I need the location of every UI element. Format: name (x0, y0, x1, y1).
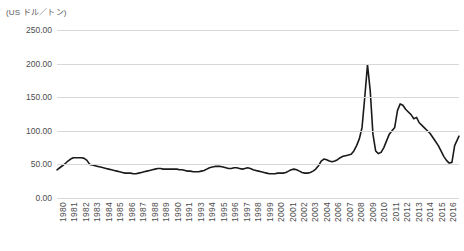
x-axis-tick-label: 1985 (115, 202, 125, 222)
x-axis-tick-label: 2015 (437, 202, 447, 222)
x-axis-tick-label: 2007 (345, 202, 355, 222)
x-axis-tick-label: 1987 (138, 202, 148, 222)
y-axis-tick-label: 100.00 (0, 126, 52, 136)
x-axis-tick-label: 2000 (276, 202, 286, 222)
y-axis-tick-label: 200.00 (0, 59, 52, 69)
x-axis-tick-label: 1991 (184, 202, 194, 222)
x-axis-tick-label: 2006 (333, 202, 343, 222)
y-axis-tick-label: 150.00 (0, 92, 52, 102)
x-axis-tick-label: 2010 (379, 202, 389, 222)
x-axis-tick-label: 1999 (265, 202, 275, 222)
x-axis-tick-label: 1998 (253, 202, 263, 222)
x-axis-tick-label: 2013 (414, 202, 424, 222)
x-axis-tick-label: 2004 (322, 202, 332, 222)
y-axis-tick-label: 250.00 (0, 25, 52, 35)
x-axis-tick-label: 1980 (58, 202, 68, 222)
x-axis-ticks: 1980198119821983198419851986198719881989… (0, 202, 464, 251)
x-axis-tick-label: 2002 (299, 202, 309, 222)
x-axis-tick-label: 1990 (173, 202, 183, 222)
x-axis-tick-label: 1995 (219, 202, 229, 222)
x-axis-tick-label: 1986 (127, 202, 137, 222)
x-axis-tick-label: 1981 (69, 202, 79, 222)
y-axis-tick-label: 50.00 (0, 159, 52, 169)
x-axis-tick-label: 1989 (161, 202, 171, 222)
x-axis-tick-label: 2003 (310, 202, 320, 222)
x-axis-tick-label: 1982 (81, 202, 91, 222)
x-axis-tick-label: 1996 (230, 202, 240, 222)
x-axis-tick-label: 2009 (368, 202, 378, 222)
x-axis-tick-label: 2001 (288, 202, 298, 222)
x-axis-tick-label: 1997 (242, 202, 252, 222)
price-line-chart: (US ドル／トン) 0.0050.00100.00150.00200.0025… (0, 0, 464, 251)
x-axis-tick-label: 1994 (207, 202, 217, 222)
x-axis-tick-label: 2008 (356, 202, 366, 222)
x-axis-tick-label: 2014 (425, 202, 435, 222)
x-axis-tick-label: 2016 (448, 202, 458, 222)
x-axis-tick-label: 1988 (150, 202, 160, 222)
x-axis-tick-label: 1984 (104, 202, 114, 222)
x-axis-tick-label: 1983 (92, 202, 102, 222)
x-axis-tick-label: 1993 (196, 202, 206, 222)
x-axis-tick-label: 2011 (391, 202, 401, 221)
x-axis-tick-label: 2012 (402, 202, 412, 222)
